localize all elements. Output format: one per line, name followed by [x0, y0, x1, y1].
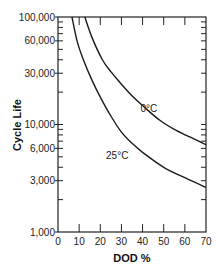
x-tick-label: 20: [95, 236, 107, 247]
y-axis-title: Cycle Life: [11, 99, 23, 151]
series-label: 0°C: [141, 103, 158, 114]
y-tick-label: 100,000: [19, 12, 56, 23]
x-tick-label: 50: [158, 236, 170, 247]
y-tick-label: 3,000: [30, 175, 55, 186]
y-tick-label: 60,000: [24, 35, 55, 46]
data-series: 0°C25°C: [72, 17, 206, 187]
x-axis-title: DOD %: [113, 252, 151, 264]
x-axis-ticks: 010203040506070: [55, 17, 212, 247]
x-tick-label: 40: [137, 236, 149, 247]
x-tick-label: 30: [116, 236, 128, 247]
series-label: 25°C: [106, 150, 128, 161]
y-axis-ticks: 100,00060,00030,00010,0006,0003,0001,000: [19, 12, 206, 238]
cycle-life-chart: 100,00060,00030,00010,0006,0003,0001,000…: [0, 0, 220, 273]
y-tick-label: 10,000: [24, 119, 55, 130]
series-curve: [85, 17, 206, 145]
x-tick-label: 0: [55, 236, 61, 247]
y-tick-label: 1,000: [30, 227, 55, 238]
x-tick-label: 10: [74, 236, 86, 247]
y-tick-label: 30,000: [24, 68, 55, 79]
x-tick-label: 70: [200, 236, 212, 247]
y-tick-label: 6,000: [30, 143, 55, 154]
x-tick-label: 60: [179, 236, 191, 247]
